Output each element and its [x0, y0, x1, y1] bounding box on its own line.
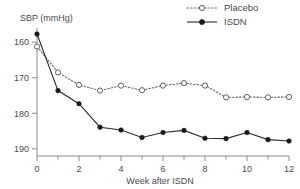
y-tick-label: 190 — [14, 144, 29, 154]
data-point-placebo — [76, 82, 81, 87]
data-point-isdn — [119, 128, 124, 133]
legend-item-isdn[interactable]: ISDN — [187, 16, 247, 27]
y-axis-ticks: 190180170160 — [14, 37, 37, 154]
data-point-placebo — [286, 94, 291, 99]
data-point-isdn — [98, 125, 103, 130]
data-point-isdn — [35, 32, 40, 37]
y-tick-label: 160 — [14, 37, 29, 47]
legend-item-placebo[interactable]: Placebo — [187, 2, 258, 13]
data-point-isdn — [77, 101, 82, 106]
data-point-placebo — [181, 81, 186, 86]
data-point-isdn — [56, 88, 61, 93]
data-point-isdn — [245, 130, 250, 135]
chart-container: SBP (mmHg) Week after ISDN 190180170160 … — [0, 0, 300, 189]
x-tick-label: 0 — [34, 164, 39, 174]
data-point-isdn — [161, 130, 166, 135]
x-tick-label: 10 — [242, 164, 252, 174]
series-line-placebo — [37, 46, 289, 97]
x-tick-label: 12 — [284, 164, 294, 174]
data-point-placebo — [244, 94, 249, 99]
legend-placebo-marker — [199, 5, 204, 10]
legend-isdn-label: ISDN — [224, 16, 247, 27]
data-point-isdn — [182, 128, 187, 133]
data-point-placebo — [118, 83, 123, 88]
x-tick-label: 2 — [76, 164, 81, 174]
data-point-isdn — [287, 139, 292, 144]
chart-legend: Placebo ISDN — [187, 2, 258, 27]
series-layer — [34, 32, 291, 144]
x-axis-title: Week after ISDN — [126, 176, 193, 186]
data-point-placebo — [202, 83, 207, 88]
data-point-placebo — [139, 88, 144, 93]
data-point-isdn — [203, 136, 208, 141]
data-point-isdn — [140, 135, 145, 140]
legend-isdn-marker — [199, 19, 204, 24]
legend-placebo-label: Placebo — [224, 2, 258, 13]
data-point-isdn — [224, 136, 229, 141]
y-axis-title: SBP (mmHg) — [20, 13, 73, 23]
sbp-line-chart: SBP (mmHg) Week after ISDN 190180170160 … — [0, 0, 300, 189]
data-point-placebo — [160, 83, 165, 88]
data-point-placebo — [97, 88, 102, 93]
data-point-placebo — [55, 70, 60, 75]
data-point-placebo — [265, 95, 270, 100]
y-tick-label: 180 — [14, 109, 29, 119]
data-point-isdn — [266, 137, 271, 142]
y-tick-label: 170 — [14, 73, 29, 83]
x-axis-ticks: 024681012 — [34, 156, 294, 174]
x-tick-label: 6 — [160, 164, 165, 174]
data-point-placebo — [223, 95, 228, 100]
x-tick-label: 4 — [118, 164, 123, 174]
data-point-placebo — [34, 44, 39, 49]
x-tick-label: 8 — [202, 164, 207, 174]
